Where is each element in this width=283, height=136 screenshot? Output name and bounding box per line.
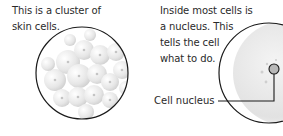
- skin-cell-cluster: [30, 20, 140, 130]
- nucleus-icon: [269, 64, 279, 74]
- cell-diagram: [0, 0, 283, 136]
- single-cell: [215, 20, 283, 130]
